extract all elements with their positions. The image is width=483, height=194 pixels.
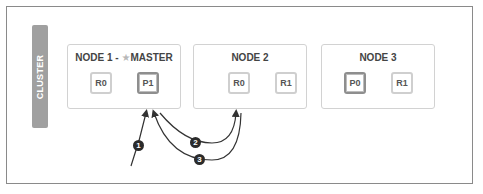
step-badge-1: 1: [133, 140, 144, 151]
request-flow-arrows: [0, 0, 483, 194]
step-number: 3: [197, 155, 201, 164]
step-badge-3: 3: [194, 154, 205, 165]
step-badge-2: 2: [190, 137, 201, 148]
step-number: 2: [193, 138, 197, 147]
step-number: 1: [136, 141, 140, 150]
